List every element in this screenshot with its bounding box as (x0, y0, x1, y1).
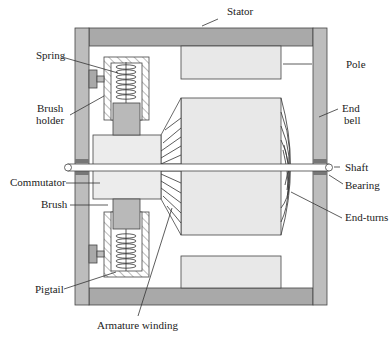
label-brush: Brush (41, 198, 68, 210)
bearing-right-top (313, 159, 327, 163)
brush-lower (113, 199, 140, 229)
bearing-right-bottom (313, 171, 327, 175)
label-stator: Stator (227, 5, 254, 17)
label-armature-winding: Armature winding (97, 319, 178, 331)
label-brush-holder-1: Brush (37, 102, 64, 114)
brush-upper (113, 103, 140, 135)
shaft-end-left (65, 164, 72, 171)
label-bearing: Bearing (345, 179, 380, 191)
label-pole: Pole (346, 58, 366, 70)
shaft (68, 164, 329, 171)
label-end-turns: End-turns (345, 211, 388, 223)
label-pigtail: Pigtail (35, 283, 64, 295)
dc-machine-diagram: Stator Spring Brush holder Pole End bell… (0, 0, 392, 343)
stator-top (89, 28, 313, 46)
label-brush-holder-2: holder (36, 114, 64, 126)
stator-bottom (89, 288, 313, 305)
shaft-end-right (326, 164, 333, 171)
bearing-left-bottom (75, 171, 89, 175)
label-spring: Spring (36, 49, 66, 61)
label-shaft: Shaft (345, 161, 368, 173)
label-commutator: Commutator (10, 176, 66, 188)
label-end-bell-2: bell (344, 114, 361, 126)
label-end-bell-1: End (342, 102, 360, 114)
pole-bottom (181, 256, 281, 288)
bearing-left-top (75, 159, 89, 163)
pole-top (181, 46, 281, 79)
